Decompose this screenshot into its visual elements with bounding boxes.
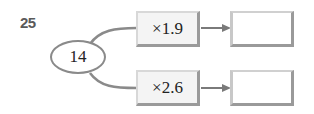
answer-box-bottom[interactable] xyxy=(230,70,294,106)
branch-curve-bottom xyxy=(90,73,137,88)
branch-curve-top xyxy=(90,28,137,44)
operator-box-top: ×1.9 xyxy=(136,11,200,47)
answer-box-top[interactable] xyxy=(230,11,294,47)
operator-box-bottom: ×2.6 xyxy=(136,70,200,106)
operator-label-top: ×1.9 xyxy=(152,19,183,39)
start-value: 14 xyxy=(70,47,87,67)
operator-label-bottom: ×2.6 xyxy=(152,78,183,98)
start-value-ellipse: 14 xyxy=(50,40,106,74)
